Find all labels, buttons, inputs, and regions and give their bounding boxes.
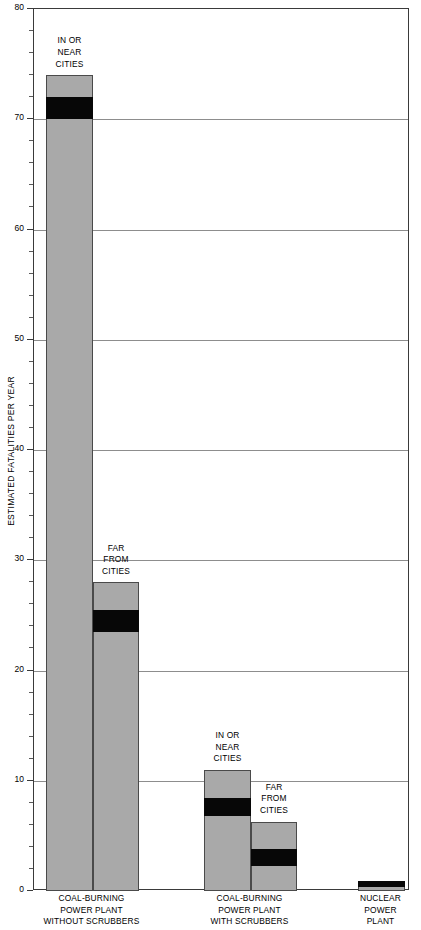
plot-area: IN OR NEAR CITIESFAR FROM CITIESIN OR NE… <box>33 8 409 890</box>
x-axis-caption-3: NUCLEAR POWER PLANT <box>301 893 421 928</box>
bar-1-annotation: IN OR NEAR CITIES <box>34 35 106 70</box>
bar-2-black-band <box>93 610 139 632</box>
y-tick-label-50: 50 <box>0 333 24 343</box>
bar-5-black-band <box>358 881 405 887</box>
y-tick-label-40: 40 <box>0 443 24 453</box>
plot-inner: IN OR NEAR CITIESFAR FROM CITIESIN OR NE… <box>34 9 408 889</box>
y-tick-major-0 <box>27 890 33 891</box>
fatalities-bar-chart: ESTIMATED FATALITIES PER YEAR 0102030405… <box>0 0 421 930</box>
y-tick-label-10: 10 <box>0 774 24 784</box>
x-axis-caption-1: COAL-BURNING POWER PLANT WITHOUT SCRUBBE… <box>12 893 172 928</box>
bar-4 <box>251 822 297 891</box>
bar-2 <box>93 582 139 891</box>
y-tick-label-70: 70 <box>0 112 24 122</box>
y-tick-label-20: 20 <box>0 664 24 674</box>
bar-4-annotation: FAR FROM CITIES <box>238 782 310 817</box>
bar-2-annotation: FAR FROM CITIES <box>80 543 152 578</box>
bar-4-black-band <box>251 849 297 866</box>
y-tick-label-60: 60 <box>0 223 24 233</box>
bar-1 <box>46 75 93 891</box>
bar-5 <box>358 881 405 891</box>
bar-3-annotation: IN OR NEAR CITIES <box>192 730 264 765</box>
y-tick-label-80: 80 <box>0 2 24 12</box>
bar-1-black-band <box>46 97 93 119</box>
y-tick-label-30: 30 <box>0 553 24 563</box>
